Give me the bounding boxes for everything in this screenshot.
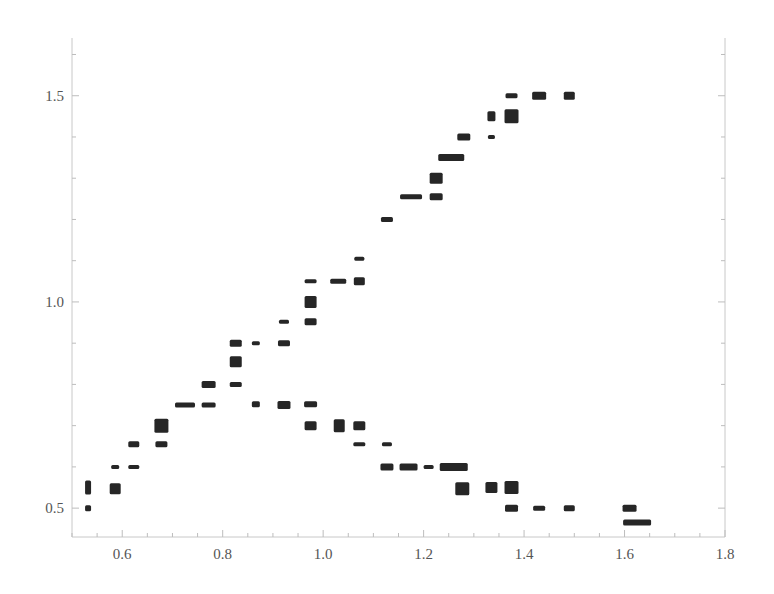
data-point-marker [230,340,242,347]
y-tick-label: 1.5 [45,88,64,104]
data-point-marker [457,133,470,140]
data-point-marker [111,465,119,469]
data-point-marker [202,381,216,388]
x-tick-label: 1.8 [716,546,735,562]
x-axis-ticks: 0.60.81.01.21.41.61.8 [72,530,734,562]
data-point-marker [488,135,495,139]
data-point-marker [175,403,195,408]
data-point-marker [128,465,139,469]
data-point-marker [505,481,519,494]
data-point-marker [277,401,290,409]
data-markers [85,92,651,526]
x-tick-label: 0.8 [213,546,232,562]
data-point-marker [353,421,365,430]
data-point-marker [354,257,364,261]
data-point-marker [252,401,260,407]
data-point-marker [279,320,289,324]
scatter-chart: 0.60.81.01.21.41.61.8 0.51.01.5 [0,0,774,594]
data-point-marker [278,340,290,346]
x-tick-label: 1.4 [515,546,534,562]
data-point-marker [564,505,575,511]
data-point-marker [438,154,464,161]
data-point-marker [505,109,519,123]
data-point-marker [533,506,545,511]
data-point-marker [455,482,469,495]
data-point-marker [424,465,434,469]
data-point-marker [353,442,365,446]
data-point-marker [202,403,216,408]
data-point-marker [623,520,651,526]
data-point-marker [485,482,497,493]
data-point-marker [154,419,168,433]
data-point-marker [381,217,393,222]
data-point-marker [623,505,637,512]
data-point-marker [330,279,346,284]
data-point-marker [85,481,91,495]
data-point-marker [440,463,468,471]
data-point-marker [430,173,443,184]
x-tick-label: 1.6 [615,546,634,562]
data-point-marker [128,441,139,447]
data-point-marker [505,505,518,512]
data-point-marker [304,401,317,407]
data-point-marker [305,296,317,308]
y-tick-label: 0.5 [45,500,64,516]
data-point-marker [564,92,575,100]
data-point-marker [400,463,418,470]
data-point-marker [380,463,393,470]
x-tick-label: 1.0 [314,546,333,562]
data-point-marker [532,92,546,100]
data-point-marker [230,356,242,367]
data-point-marker [230,382,242,387]
data-point-marker [506,93,518,98]
data-point-marker [382,442,392,446]
data-point-marker [305,279,317,283]
x-tick-label: 1.2 [414,546,433,562]
y-axis-ticks: 0.51.01.5 [45,54,725,516]
plot-frame [72,38,725,537]
data-point-marker [305,421,317,430]
x-tick-label: 0.6 [113,546,132,562]
data-point-marker [155,441,167,447]
data-point-marker [305,318,317,325]
data-point-marker [400,194,422,199]
data-point-marker [430,193,443,200]
data-point-marker [334,419,345,432]
data-point-marker [354,277,365,285]
y-tick-label: 1.0 [45,294,64,310]
data-point-marker [110,483,121,494]
data-point-marker [85,505,91,511]
data-point-marker [487,111,495,121]
data-point-marker [252,341,260,345]
